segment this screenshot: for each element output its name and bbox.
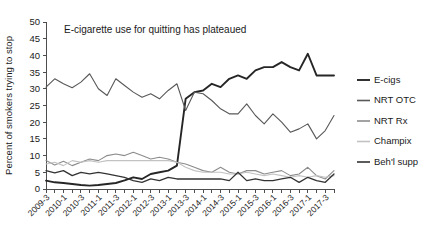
x-tick-group: 2009-32010-12010-32011-12011-32012-12012… [26,189,334,218]
y-tick-label: 0 [35,183,40,194]
y-tick-label: 50 [29,16,40,27]
y-tick-label: 40 [29,50,40,61]
y-tick-label: 25 [29,100,40,111]
y-tick-label: 45 [29,33,40,44]
y-tick-group: 05101520253035404550 [29,16,46,194]
chart-container: 05101520253035404550 Percent of smokers … [0,0,437,241]
series-line-nrt-rx [46,152,334,179]
legend-label-beh-l-supp: Beh'l supp [374,156,418,167]
y-tick-label: 5 [35,167,40,178]
x-axis: 2009-32010-12010-32011-12011-32012-12012… [26,189,334,218]
chart-legend: E-cigsNRT OTCNRT RxChampixBeh'l supp [357,74,418,167]
legend-label-champix: Champix [374,135,412,146]
y-tick-label: 10 [29,150,40,161]
y-tick-label: 20 [29,117,40,128]
series-line-nrt-otc [46,74,334,139]
series-group [46,54,334,186]
chart-annotation: E-cigarette use for quitting has plateau… [64,24,246,35]
series-line-beh-l-supp [46,171,334,183]
line-chart: 05101520253035404550 Percent of smokers … [0,0,437,241]
y-tick-label: 35 [29,67,40,78]
y-axis: 05101520253035404550 Percent of smokers … [3,16,46,194]
legend-label-e-cigs: E-cigs [374,74,401,85]
y-axis-title: Percent of smokers trying to stop [3,36,14,175]
legend-label-nrt-rx: NRT Rx [374,115,408,126]
y-tick-label: 30 [29,83,40,94]
legend-label-nrt-otc: NRT OTC [374,94,416,105]
series-line-champix [46,161,334,178]
y-tick-label: 15 [29,133,40,144]
